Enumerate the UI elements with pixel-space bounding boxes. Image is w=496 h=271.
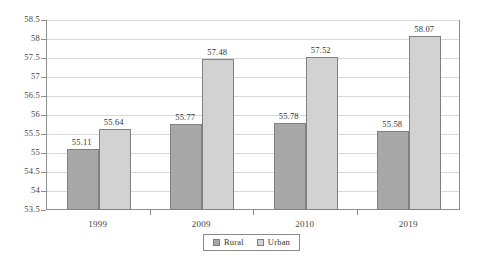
gridline <box>47 58 459 59</box>
bar-value-label: 55.78 <box>267 111 311 122</box>
bar-value-label: 55.77 <box>163 112 207 123</box>
legend-item-urban[interactable]: Urban <box>257 238 290 247</box>
y-axis-label: 56 <box>2 110 40 119</box>
y-axis-label: 58.5 <box>2 15 40 24</box>
y-axis-label: 54.5 <box>2 167 40 176</box>
x-axis-tick <box>357 210 358 215</box>
bar-chart: 58.55857.55756.55655.55554.55453.5 19992… <box>0 0 496 271</box>
bar-value-label: 55.58 <box>370 119 414 130</box>
bar-urban-2010 <box>306 57 338 210</box>
gridline <box>47 20 459 21</box>
x-axis-tick <box>253 210 254 215</box>
legend-label-rural: Rural <box>224 238 244 247</box>
y-axis-label: 53.5 <box>2 205 40 214</box>
bar-rural-2009 <box>170 124 202 210</box>
bar-value-label: 55.64 <box>92 117 136 128</box>
bar-rural-1999 <box>67 149 99 210</box>
legend-item-rural[interactable]: Rural <box>213 238 244 247</box>
gridline <box>47 39 459 40</box>
y-axis-label: 58 <box>2 34 40 43</box>
x-axis-label: 1999 <box>46 218 150 230</box>
bar-urban-2009 <box>202 59 234 210</box>
chart-legend: Rural Urban <box>203 234 300 251</box>
bar-value-label: 55.11 <box>60 137 104 148</box>
bar-value-label: 57.48 <box>195 47 239 58</box>
y-axis-label: 57.5 <box>2 53 40 62</box>
legend-swatch-rural-icon <box>213 239 220 246</box>
x-axis-label: 2009 <box>150 218 254 230</box>
y-axis-label: 56.5 <box>2 91 40 100</box>
y-axis-label: 54 <box>2 186 40 195</box>
legend-label-urban: Urban <box>268 238 290 247</box>
bar-rural-2019 <box>377 131 409 210</box>
bar-value-label: 57.52 <box>299 45 343 56</box>
gridline <box>47 77 459 78</box>
x-axis-label: 2010 <box>253 218 357 230</box>
legend-swatch-urban-icon <box>257 239 264 246</box>
bar-value-label: 58.07 <box>402 24 446 35</box>
gridline <box>47 96 459 97</box>
x-axis-tick <box>150 210 151 215</box>
plot-area <box>46 20 460 210</box>
y-axis-label: 57 <box>2 72 40 81</box>
bar-rural-2010 <box>274 123 306 210</box>
y-axis-label: 55.5 <box>2 129 40 138</box>
y-axis-tick <box>41 210 46 211</box>
x-axis-label: 2019 <box>357 218 461 230</box>
y-axis-label: 55 <box>2 148 40 157</box>
